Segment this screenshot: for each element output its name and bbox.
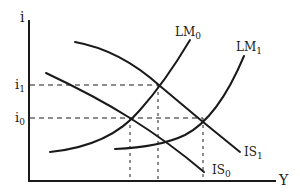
lm1-label: LM1: [236, 40, 262, 56]
is1-label: IS1: [244, 145, 263, 161]
lm0-label: LM0: [175, 25, 201, 41]
is-lm-diagram: i Y i1 i0 LM0 LM1 IS1 IS0: [0, 0, 300, 192]
y-axis-label: i: [20, 9, 25, 25]
is0-label: IS0: [212, 163, 231, 179]
is0-curve: [46, 73, 204, 172]
x-axis-label: Y: [278, 172, 289, 188]
i1-label: i1: [15, 77, 25, 94]
i0-label: i0: [15, 110, 25, 127]
